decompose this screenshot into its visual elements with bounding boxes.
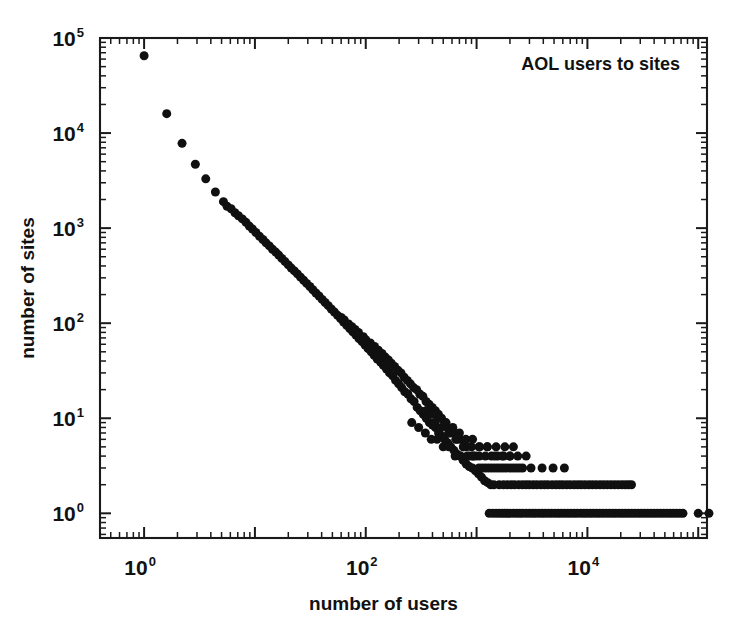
- x-tick-label-2: 104: [568, 554, 600, 579]
- data-point: [538, 463, 547, 472]
- data-point: [500, 442, 509, 451]
- data-point: [211, 187, 220, 196]
- data-point: [483, 442, 492, 451]
- x-axis-title: number of users: [309, 593, 458, 614]
- y-tick-label-1: 101: [52, 405, 84, 430]
- data-point: [560, 463, 569, 472]
- data-point: [627, 480, 636, 489]
- data-point: [468, 435, 477, 444]
- data-point: [513, 452, 522, 461]
- data-point: [678, 509, 687, 518]
- y-tick-label-5: 105: [52, 25, 84, 50]
- data-point: [191, 160, 200, 169]
- data-point: [140, 51, 149, 60]
- data-point: [455, 428, 464, 437]
- data-point: [704, 509, 713, 518]
- data-point: [694, 509, 703, 518]
- y-tick-label-4: 104: [52, 120, 84, 145]
- y-tick-label-3: 103: [52, 215, 84, 240]
- y-tick-label-0: 100: [52, 500, 84, 525]
- data-points-layer: [140, 51, 714, 518]
- chart-figure: 100102104100101102103104105number of use…: [0, 0, 732, 621]
- y-axis-title: number of sites: [17, 217, 38, 358]
- scatter-plot-svg: 100102104100101102103104105number of use…: [0, 0, 732, 621]
- data-point: [178, 139, 187, 148]
- data-point: [509, 442, 518, 451]
- plot-frame: [100, 38, 707, 538]
- x-tick-label-0: 100: [124, 554, 156, 579]
- x-tick-label-1: 102: [346, 554, 378, 579]
- data-point: [492, 442, 501, 451]
- data-point: [505, 452, 514, 461]
- data-point: [518, 463, 527, 472]
- data-point: [527, 463, 536, 472]
- y-tick-label-2: 102: [52, 310, 84, 335]
- data-point: [498, 452, 507, 461]
- data-point: [549, 463, 558, 472]
- data-point: [201, 174, 210, 183]
- axis-ticks: [100, 38, 707, 538]
- data-point: [522, 452, 531, 461]
- plot-annotation-label: AOL users to sites: [521, 54, 680, 74]
- data-point: [444, 442, 453, 451]
- data-point: [433, 435, 442, 444]
- data-point: [162, 109, 171, 118]
